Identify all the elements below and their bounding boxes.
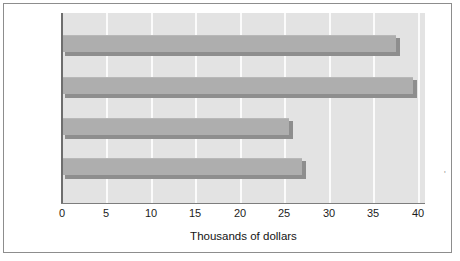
- bar-fill: [62, 158, 302, 175]
- stray-mark: ': [444, 172, 448, 176]
- bar-white: [62, 77, 413, 98]
- bar-shadow: [65, 135, 289, 139]
- x-tick-label-5: 5: [91, 207, 121, 220]
- chart-figure: Total White Black Hispanic 0 5 10 15 20 …: [0, 0, 460, 261]
- x-tick-label-40: 40: [403, 207, 433, 220]
- bar-shadow: [289, 121, 293, 139]
- plot-area: [62, 13, 425, 203]
- bar-hispanic: [62, 158, 302, 179]
- bar-shadow: [413, 80, 417, 98]
- x-axis-line: [61, 203, 425, 204]
- x-tick-label-15: 15: [180, 207, 210, 220]
- x-tick-label-35: 35: [358, 207, 388, 220]
- gridline: [418, 13, 420, 203]
- x-tick-label-0: 0: [47, 207, 77, 220]
- bar-fill: [62, 77, 413, 94]
- x-tick-label-30: 30: [314, 207, 344, 220]
- y-axis-line: [61, 13, 63, 204]
- bar-shadow: [65, 52, 396, 56]
- bar-fill: [62, 35, 396, 52]
- bar-black: [62, 118, 289, 139]
- x-tick-label-20: 20: [225, 207, 255, 220]
- bar-shadow: [302, 161, 306, 179]
- bar-shadow: [65, 94, 413, 98]
- x-axis-title: Thousands of dollars: [62, 229, 425, 243]
- bar-shadow: [396, 38, 400, 56]
- bar-shadow: [65, 175, 302, 179]
- bar-total: [62, 35, 396, 56]
- x-tick-label-25: 25: [269, 207, 299, 220]
- bar-fill: [62, 118, 289, 135]
- x-tick-label-10: 10: [136, 207, 166, 220]
